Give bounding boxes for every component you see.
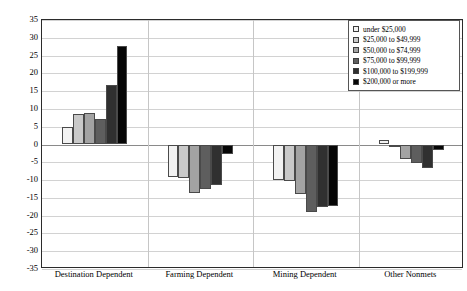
- bar: [117, 46, 128, 145]
- bar: [178, 145, 189, 178]
- bar-chart: 35302520151050-5-10-15-20-25-30-35 Desti…: [0, 0, 467, 291]
- y-axis: 35302520151050-5-10-15-20-25-30-35: [0, 19, 38, 268]
- legend-item[interactable]: $50,000 to $74,999: [353, 45, 455, 56]
- bar: [306, 145, 317, 213]
- x-axis-tick-label: Other Nonmets: [384, 270, 436, 279]
- legend-item-label: under $25,000: [363, 26, 406, 33]
- gridline: [42, 216, 462, 217]
- y-axis-tick-label: 25: [4, 50, 38, 59]
- bar: [106, 85, 117, 145]
- legend-swatch-icon: [353, 79, 359, 85]
- y-axis-tick-label: 15: [4, 86, 38, 95]
- legend-item-label: $75,000 to $99,999: [363, 57, 420, 64]
- bar: [389, 145, 400, 147]
- y-axis-tick-label: 20: [4, 68, 38, 77]
- legend-swatch-icon: [353, 68, 359, 74]
- y-axis-tick-label: -30: [4, 246, 38, 255]
- legend-item-label: $50,000 to $74,999: [363, 47, 420, 54]
- legend: under $25,000$25,000 to $49,999$50,000 t…: [348, 20, 460, 91]
- y-axis-tick-label: -20: [4, 210, 38, 219]
- y-axis-tick-label: -15: [4, 193, 38, 202]
- x-axis-tick-label: Destination Dependent: [55, 270, 133, 279]
- bar: [73, 114, 84, 145]
- legend-swatch-icon: [353, 58, 359, 64]
- legend-item-label: $200,000 or more: [363, 78, 416, 85]
- bar: [62, 127, 73, 145]
- bar: [284, 145, 295, 182]
- bar: [422, 145, 433, 168]
- x-axis: Destination DependentFarming DependentMi…: [41, 270, 463, 288]
- gridline: [42, 162, 462, 163]
- x-axis-tick-label: Farming Dependent: [165, 270, 233, 279]
- bar: [95, 119, 106, 145]
- gridline: [42, 180, 462, 181]
- legend-item-label: $25,000 to $49,999: [363, 36, 420, 43]
- y-axis-tick-label: -10: [4, 175, 38, 184]
- bar: [379, 140, 390, 145]
- gridline: [42, 233, 462, 234]
- group-separator: [253, 20, 254, 267]
- bar: [211, 145, 222, 186]
- bar: [273, 145, 284, 181]
- y-axis-tick-label: 5: [4, 121, 38, 130]
- legend-item-label: $100,000 to $199,999: [363, 68, 428, 75]
- bar: [168, 145, 179, 177]
- y-axis-tick-label: -35: [4, 264, 38, 273]
- y-axis-tick-label: -5: [4, 157, 38, 166]
- bar: [84, 113, 95, 144]
- legend-item[interactable]: $200,000 or more: [353, 77, 455, 88]
- group-separator: [148, 20, 149, 267]
- y-axis-tick-label: -25: [4, 228, 38, 237]
- bar: [328, 145, 339, 207]
- legend-item[interactable]: $25,000 to $49,999: [353, 35, 455, 46]
- legend-swatch-icon: [353, 37, 359, 43]
- y-axis-tick-label: 10: [4, 104, 38, 113]
- legend-swatch-icon: [353, 47, 359, 53]
- bar: [400, 145, 411, 159]
- gridline: [42, 198, 462, 199]
- x-axis-tick-label: Mining Dependent: [273, 270, 337, 279]
- legend-item[interactable]: $75,000 to $99,999: [353, 56, 455, 67]
- y-axis-tick-label: 0: [4, 139, 38, 148]
- bar: [433, 145, 444, 151]
- legend-swatch-icon: [353, 26, 359, 32]
- bar: [317, 145, 328, 207]
- gridline: [42, 251, 462, 252]
- bar: [295, 145, 306, 195]
- y-axis-tick-label: 30: [4, 33, 38, 42]
- bar: [200, 145, 211, 189]
- legend-item[interactable]: under $25,000: [353, 24, 455, 35]
- bar: [222, 145, 233, 155]
- y-axis-tick-label: 35: [4, 15, 38, 24]
- bar: [411, 145, 422, 163]
- bar: [189, 145, 200, 193]
- legend-item[interactable]: $100,000 to $199,999: [353, 66, 455, 77]
